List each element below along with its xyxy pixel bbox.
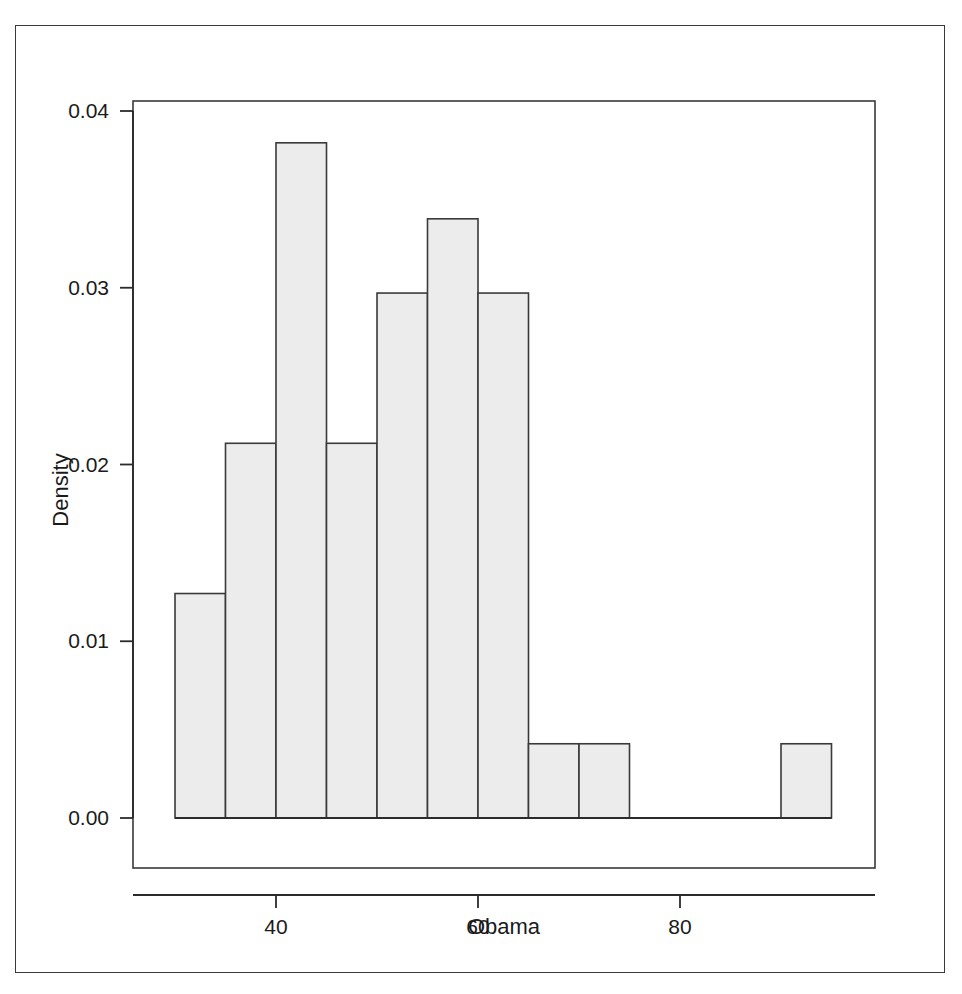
histogram-bar — [478, 293, 529, 818]
histogram-plot: 0.000.010.020.030.04 406080 Obama Densit… — [0, 0, 962, 994]
histogram-bar — [327, 443, 378, 818]
figure-root: 0.000.010.020.030.04 406080 Obama Densit… — [0, 0, 962, 994]
y-tick-label: 0.04 — [68, 99, 109, 122]
y-tick-label: 0.00 — [68, 806, 109, 829]
histogram-bar — [428, 219, 479, 818]
x-axis-title: Obama — [468, 914, 541, 939]
histogram-bar — [781, 744, 832, 818]
histogram-bar — [226, 443, 277, 818]
y-axis-ticks: 0.000.010.020.030.04 — [68, 99, 133, 829]
histogram-bar — [529, 744, 580, 818]
histogram-bar — [276, 143, 327, 818]
x-tick-label: 40 — [264, 915, 287, 938]
y-tick-label: 0.02 — [68, 453, 109, 476]
y-tick-label: 0.01 — [68, 629, 109, 652]
histogram-bar — [377, 293, 428, 818]
y-tick-label: 0.03 — [68, 276, 109, 299]
x-tick-label: 80 — [668, 915, 691, 938]
histogram-bar — [175, 594, 226, 818]
y-axis-title: Density — [48, 453, 73, 526]
histogram-bar — [579, 744, 630, 818]
histogram-bars — [175, 143, 832, 818]
